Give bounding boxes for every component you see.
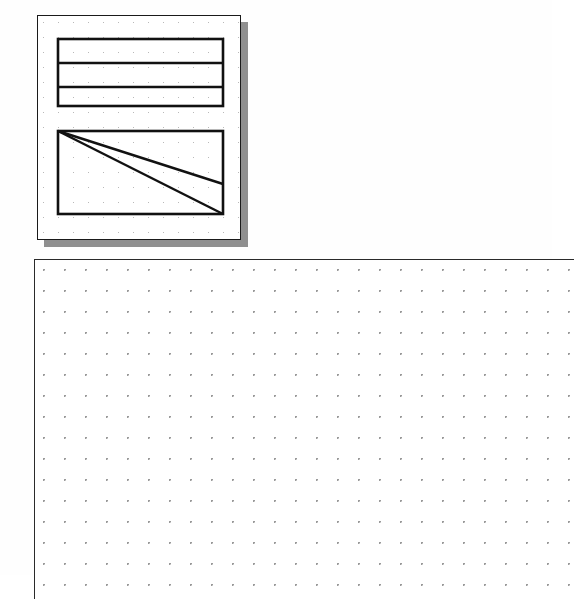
shape-banded-rectangle[interactable] [58,39,223,106]
detail-panel[interactable]: Detail View [37,15,241,240]
upper-diagonal-line[interactable] [58,131,223,184]
detail-panel-shapes [38,16,241,240]
lower-diagonal-line[interactable] [58,131,223,214]
banded-rectangle-outline[interactable] [58,39,223,106]
main-canvas-grid [35,260,574,599]
shape-diagonal-rectangle[interactable] [58,131,223,214]
main-canvas[interactable]: Drawing Canvas [34,259,574,599]
detail-panel-body[interactable]: Detail View [37,15,241,240]
